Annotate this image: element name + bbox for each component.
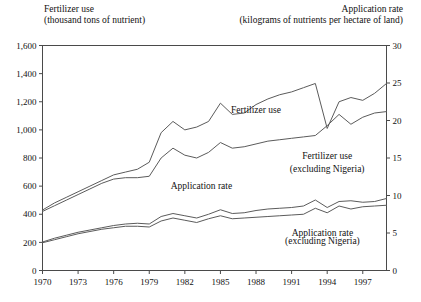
x-axis-tick-label: 1991 [283,277,301,287]
y-axis-left-tick-label: 0 [32,266,37,276]
y-axis-left-tick-label: 800 [23,153,37,163]
y-axis-left-tick-label: 600 [23,181,37,191]
series-label: Fertilizer use [231,105,281,115]
x-axis-tick-label: 1997 [354,277,373,287]
x-axis-tick-label: 1973 [69,277,88,287]
x-axis-tick-label: 1982 [176,277,194,287]
y-axis-right-tick-label: 20 [393,116,403,126]
y-axis-right-tick-label: 30 [393,41,403,51]
y-axis-right-tick-label: 5 [393,228,398,238]
x-axis-tick-label: 1970 [34,277,53,287]
y-axis-left-tick-label: 1,400 [16,69,37,79]
y-axis-left-tick-label: 1,000 [16,125,37,135]
series-label: Application rate [171,181,232,191]
y-axis-left-tick-label: 1,200 [16,97,37,107]
y-axis-right-tick-label: 15 [393,153,403,163]
series-annotations: Fertilizer useFertilizer use(excluding N… [171,105,365,247]
x-axis-tick-label: 1994 [318,277,337,287]
line-chart: 02004006008001,0001,2001,4001,600 051015… [0,0,421,302]
y-axis-left-labels: 02004006008001,0001,2001,4001,600 [16,41,37,276]
x-axis-tick-label: 1979 [140,277,159,287]
x-axis-tick-label: 1976 [105,277,124,287]
y-axis-right-tick-label: 25 [393,78,403,88]
series-line [43,112,387,212]
series-label: (excluding Nigeria) [285,236,360,247]
y-axis-left-tick-label: 400 [23,209,37,219]
x-axis-labels: 1970197319761979198219851988199119941997 [34,277,373,287]
y-axis-right-tick-label: 0 [393,266,398,276]
series-label: Fertilizer use [302,151,352,161]
y-axis-left-tick-label: 1,600 [16,41,37,51]
x-axis-tick-label: 1988 [247,277,266,287]
series-line [43,83,387,210]
y-axis-right-tick-label: 10 [393,191,403,201]
y-axis-left-tick-label: 200 [23,238,37,248]
x-axis-tick-label: 1985 [211,277,230,287]
y-axis-right-labels: 051015202530 [393,41,403,276]
series-label: (excluding Nigeria) [290,164,365,175]
